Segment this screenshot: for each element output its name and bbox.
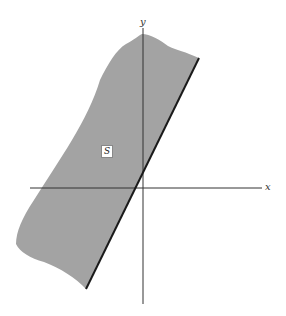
region-s	[16, 34, 199, 289]
region-label: S	[101, 145, 113, 158]
diagram-canvas	[0, 0, 286, 316]
y-axis-label: y	[140, 17, 146, 27]
x-axis-label: x	[265, 182, 271, 192]
